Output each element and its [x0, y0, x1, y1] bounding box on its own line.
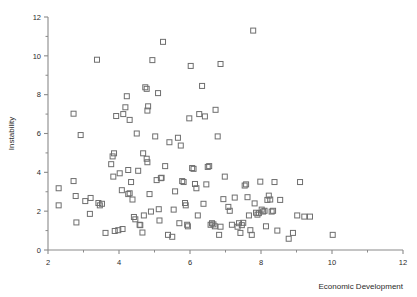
data-point — [229, 222, 234, 227]
data-point — [171, 207, 176, 212]
y-axis-title: Instability — [7, 117, 16, 150]
data-point — [103, 230, 108, 235]
data-point — [143, 85, 148, 90]
data-point — [156, 207, 161, 212]
y-tick-label: 6 — [37, 129, 41, 138]
data-point — [94, 57, 99, 62]
data-point — [213, 107, 218, 112]
data-point — [88, 195, 93, 200]
data-point — [187, 116, 192, 121]
x-tick-label: 4 — [117, 258, 121, 267]
data-point — [112, 151, 117, 156]
data-point — [83, 199, 88, 204]
data-point — [278, 197, 283, 202]
data-point — [200, 83, 205, 88]
data-point — [178, 143, 183, 148]
data-point — [136, 168, 141, 173]
data-point — [140, 230, 145, 235]
data-point — [150, 58, 155, 63]
data-point — [56, 203, 61, 208]
data-point — [286, 236, 291, 241]
data-point — [141, 213, 146, 218]
data-point — [119, 188, 124, 193]
data-point — [110, 154, 115, 159]
data-point — [147, 192, 152, 197]
data-point — [163, 164, 168, 169]
data-point — [121, 112, 126, 117]
data-point — [221, 197, 226, 202]
data-point — [204, 182, 209, 187]
data-point — [167, 140, 172, 145]
data-point — [71, 111, 76, 116]
data-point — [252, 201, 257, 206]
data-point — [232, 195, 237, 200]
data-point — [298, 180, 303, 185]
data-point — [153, 134, 158, 139]
data-point — [195, 213, 200, 218]
data-point — [157, 218, 162, 223]
data-point — [156, 91, 161, 96]
x-axis-title: Economic Development — [319, 282, 404, 291]
data-point — [134, 131, 139, 136]
data-point — [111, 174, 116, 179]
data-point-group — [56, 28, 335, 241]
data-point — [148, 209, 153, 214]
data-point — [222, 174, 227, 179]
x-tick-label: 2 — [46, 258, 50, 267]
data-point — [177, 221, 182, 226]
data-point — [78, 133, 83, 138]
chart-canvas: 02468101224681012Economic DevelopmentIns… — [0, 0, 417, 297]
x-tick-label: 8 — [259, 258, 263, 267]
data-point — [215, 134, 220, 139]
data-point — [124, 94, 129, 99]
data-point — [217, 232, 222, 237]
data-point — [56, 186, 61, 191]
data-point — [175, 135, 180, 140]
y-tick-label: 4 — [37, 168, 41, 177]
data-point — [161, 39, 166, 44]
data-point — [238, 230, 243, 235]
data-point — [87, 211, 92, 216]
data-point — [201, 201, 206, 206]
x-tick-label: 12 — [399, 258, 407, 267]
data-point — [251, 28, 256, 33]
data-point — [127, 117, 132, 122]
y-tick-label: 8 — [37, 90, 41, 99]
data-point — [258, 179, 263, 184]
data-point — [272, 180, 277, 185]
data-point — [218, 61, 223, 66]
data-point — [245, 195, 250, 200]
data-point — [73, 194, 78, 199]
y-tick-label: 12 — [33, 13, 41, 22]
data-point — [130, 197, 135, 202]
data-point — [330, 232, 335, 237]
data-point — [218, 224, 223, 229]
data-point — [197, 112, 202, 117]
data-point — [71, 179, 76, 184]
data-point — [275, 228, 280, 233]
data-point — [114, 114, 119, 119]
y-tick-label: 10 — [33, 52, 41, 61]
x-tick-label: 6 — [188, 258, 192, 267]
x-tick-label: 10 — [328, 258, 336, 267]
data-point — [290, 230, 295, 235]
y-tick-label: 2 — [37, 207, 41, 216]
data-point — [307, 214, 312, 219]
data-point — [202, 114, 207, 119]
data-point — [255, 212, 260, 217]
data-point — [109, 162, 114, 167]
data-point — [129, 180, 134, 185]
data-point — [117, 171, 122, 176]
data-point — [123, 105, 128, 110]
y-tick-label: 0 — [37, 246, 41, 255]
data-point — [141, 151, 146, 156]
data-point — [188, 63, 193, 68]
data-point — [263, 224, 268, 229]
scatter-plot-figure: 02468101224681012Economic DevelopmentIns… — [0, 0, 417, 297]
data-point — [173, 189, 178, 194]
data-point — [74, 220, 79, 225]
data-point — [302, 214, 307, 219]
data-point — [126, 168, 131, 173]
data-point — [246, 213, 251, 218]
data-point — [295, 213, 300, 218]
